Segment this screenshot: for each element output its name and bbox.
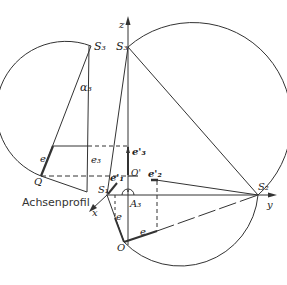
label-z-axis: z	[118, 19, 125, 30]
label-a3: A₃	[129, 198, 141, 209]
label-e3-prime: e'₃	[132, 146, 146, 157]
line-e2-s2	[156, 180, 258, 195]
label-e-left: e	[40, 153, 46, 164]
label-s2: S₂	[258, 181, 269, 192]
label-e1-prime: e'₁	[110, 172, 124, 183]
label-x-axis: x	[92, 207, 98, 218]
axis-profile-diagram: S₃ S₃ α₃ z e e₃ Q e'₃ O' e'₁ e'₂ S₁ A₃ S…	[0, 0, 287, 285]
line-q-bottom	[41, 176, 87, 192]
e3-arrow-icon	[126, 146, 130, 153]
right-angle-dot	[127, 190, 129, 192]
label-y-axis: y	[266, 199, 273, 210]
label-alpha3: α₃	[80, 81, 92, 94]
y-arrow-icon	[268, 193, 277, 198]
label-s3-left: S₃	[94, 40, 106, 53]
label-e3-left: e₃	[91, 154, 101, 165]
label-s1: S₁	[98, 184, 109, 195]
z-arrow-icon	[126, 16, 131, 25]
line-s3-vertical	[87, 46, 89, 192]
right-circle-arc	[124, 23, 287, 266]
label-e-lower: e	[116, 211, 122, 222]
label-o-prime: O'	[131, 168, 141, 178]
label-o: O	[117, 242, 125, 253]
caption-achsenprofil: Achsenprofil	[22, 196, 90, 209]
label-q: Q	[34, 176, 42, 187]
label-e-bottom: e	[140, 226, 146, 237]
label-s3-right: S₃	[116, 40, 128, 53]
vector-e1-prime	[108, 183, 117, 194]
line-o-s2	[157, 195, 258, 231]
label-e2-prime: e'₂	[148, 168, 162, 179]
